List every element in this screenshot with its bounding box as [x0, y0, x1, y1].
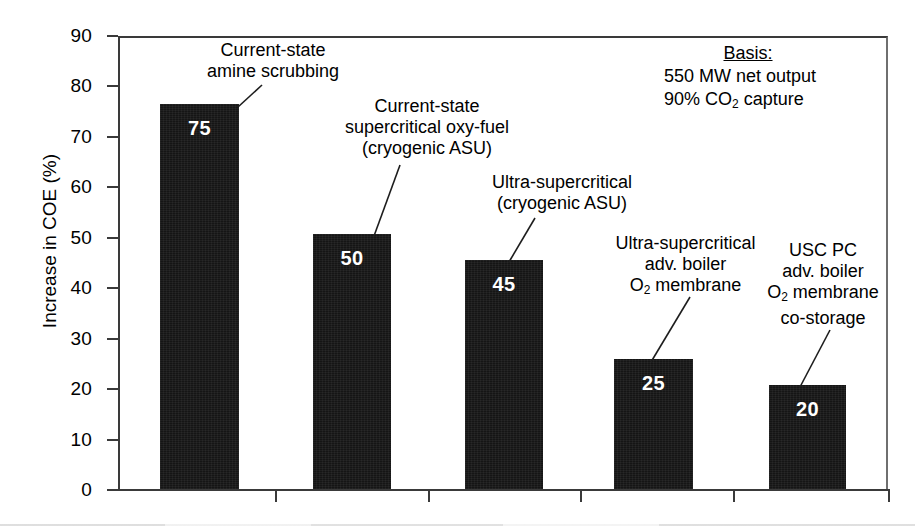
- basis-line-1: 550 MW net output: [648, 65, 848, 88]
- basis-line-2: 90% CO2 capture: [648, 88, 848, 116]
- basis-title: Basis:: [648, 42, 848, 65]
- bar-chart: 90 80 70 60 50 40 30 20 10 0 Increase in…: [0, 0, 915, 532]
- basis-note: Basis: 550 MW net output 90% CO2 capture: [648, 42, 848, 116]
- basis-co-pre: 90% CO: [664, 89, 732, 109]
- basis-co-post: capture: [739, 89, 804, 109]
- basis-co2-subscript: 2: [732, 97, 739, 111]
- scan-artifact: [0, 524, 915, 526]
